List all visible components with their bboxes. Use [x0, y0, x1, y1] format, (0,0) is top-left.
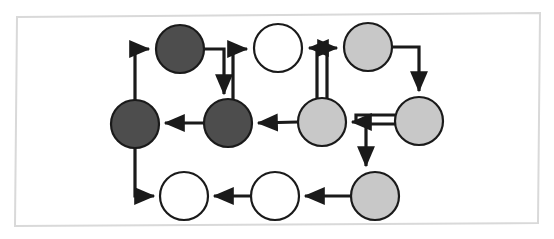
node-n10[interactable] [160, 172, 208, 220]
diagram-canvas [0, 0, 554, 239]
node-n3[interactable] [344, 23, 392, 71]
node-graph-diagram [0, 0, 554, 239]
node-n5[interactable] [204, 99, 252, 147]
node-n8[interactable] [351, 172, 399, 220]
node-n2[interactable] [254, 24, 302, 72]
node-n7[interactable] [395, 97, 443, 145]
node-n9[interactable] [251, 172, 299, 220]
node-n4[interactable] [111, 100, 159, 148]
node-n6[interactable] [298, 98, 346, 146]
node-n1[interactable] [156, 25, 204, 73]
edge-n6-to-n5 [258, 122, 298, 123]
